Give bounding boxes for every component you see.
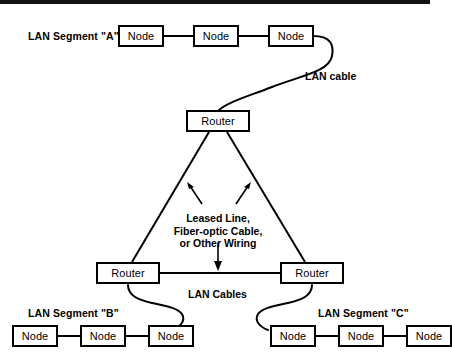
segment-a-node-1[interactable]: Node [118,25,164,47]
lan-cable-segment-c [257,285,312,330]
segment-b-node-1[interactable]: Node [12,325,58,347]
router-bottom-right[interactable]: Router [280,262,344,284]
wan-link-note: Leased Line, Fiber-optic Cable, or Other… [145,212,291,250]
wan-callout-arrow-left [187,182,202,204]
segment-a-node-2[interactable]: Node [193,25,239,47]
segment-b-node-3[interactable]: Node [148,325,194,347]
segment-c-node-2[interactable]: Node [338,325,384,347]
segment-c-node-1[interactable]: Node [270,325,316,347]
segment-a-label: LAN Segment "A" [28,30,119,42]
router-top[interactable]: Router [186,110,250,132]
segment-b-node-2[interactable]: Node [80,325,126,347]
wan-link-note-line-1: Leased Line, [145,212,291,225]
segment-c-label: LAN Segment "C" [318,307,409,319]
segment-c-node-3[interactable]: Node [406,325,452,347]
lan-cable-segment-b [128,285,183,330]
router-bottom-left[interactable]: Router [96,262,160,284]
lan-cable-top-label: LAN cable [305,70,356,82]
segment-b-label: LAN Segment "B" [28,307,119,319]
segment-a-node-3[interactable]: Node [268,25,314,47]
lan-cables-bottom-label: LAN Cables [188,288,247,300]
wan-link-note-line-2: Fiber-optic Cable, [145,225,291,238]
wan-link-note-line-3: or Other Wiring [145,237,291,250]
wan-callout-arrow-right [236,182,251,204]
